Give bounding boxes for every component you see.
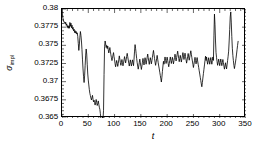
y-axis-tick-label: 0.38	[0, 4, 58, 12]
x-axis-tick-labels: 050100150200250300350	[61, 119, 245, 131]
plot-area	[61, 8, 245, 117]
figure-container: 0.3650.36750.370.37250.3750.37750.38 σim…	[0, 0, 258, 149]
y-axis-tick-label: 0.365	[0, 113, 58, 121]
x-axis-tick-label: 350	[238, 119, 251, 128]
x-axis-tick-label: 50	[83, 119, 92, 128]
x-axis-title: t	[61, 131, 245, 141]
y-axis-tick-label: 0.3775	[0, 22, 58, 30]
x-axis-tick-label: 0	[59, 119, 63, 128]
data-series-line	[62, 9, 238, 118]
y-axis-tick-label: 0.3675	[0, 95, 58, 103]
x-axis-tick-label: 100	[107, 119, 120, 128]
y-axis-title-subscript: impl	[9, 55, 15, 65]
x-axis-tick-label: 300	[212, 119, 225, 128]
minor-tick-marks	[62, 9, 246, 118]
line-chart-svg	[62, 9, 246, 118]
x-axis-tick-label: 250	[186, 119, 199, 128]
y-axis-title: σimpl	[5, 48, 35, 78]
x-axis-tick-label: 150	[133, 119, 146, 128]
x-axis-tick-label: 200	[159, 119, 172, 128]
y-axis-title-base: σ	[4, 66, 14, 71]
